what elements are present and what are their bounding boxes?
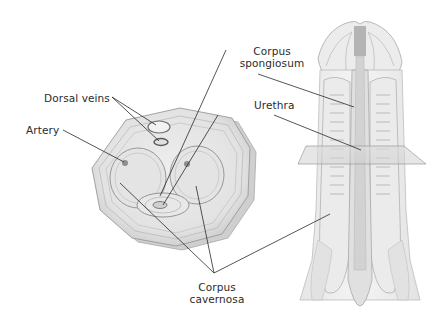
label-corpus-cavernosa-line2: cavernosa xyxy=(182,293,252,305)
label-corpus-spongiosum: Corpus spongiosum xyxy=(232,45,312,69)
label-urethra: Urethra xyxy=(254,99,294,111)
label-corpus-spongiosum-line1: Corpus xyxy=(232,45,312,57)
label-artery: Artery xyxy=(26,124,59,136)
dorsal-vein-deep xyxy=(154,139,168,146)
dorsal-vein-superficial xyxy=(148,121,170,133)
artery-left xyxy=(122,160,128,166)
diagram-artwork xyxy=(0,0,448,314)
urethral-meatus xyxy=(354,26,366,56)
label-corpus-cavernosa-line1: Corpus xyxy=(182,281,252,293)
label-dorsal-veins: Dorsal veins xyxy=(44,92,110,104)
anatomy-diagram: Dorsal veins Artery Corpus spongiosum Ur… xyxy=(0,0,448,314)
label-corpus-spongiosum-line2: spongiosum xyxy=(232,57,312,69)
section-plane xyxy=(298,146,426,164)
longitudinal-section xyxy=(298,21,426,306)
label-corpus-cavernosa: Corpus cavernosa xyxy=(182,281,252,305)
cross-section xyxy=(92,108,256,250)
